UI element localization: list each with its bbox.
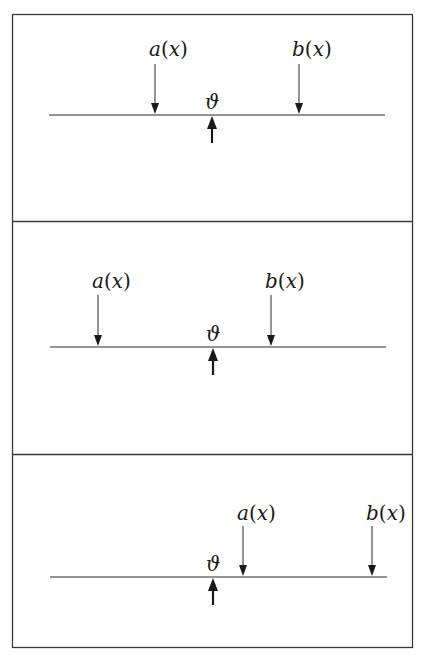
b-label: b(x) [292,37,332,61]
b-arrow-head-icon [267,335,275,346]
theta-arrow-head-icon [207,116,217,129]
b-arrow-head-icon [295,103,303,114]
panel-3: a(x) b(x) ϑ [50,501,406,605]
a-label: a(x) [237,501,276,525]
three-panel-diagram: a(x) b(x) ϑ a(x) b(x) ϑ a(x) b(x) ϑ [0,0,425,657]
theta-arrow-head-icon [208,348,218,361]
a-label: a(x) [149,37,188,61]
a-arrow-head-icon [94,335,102,346]
panel-1: a(x) b(x) ϑ [49,37,385,143]
panel-2: a(x) b(x) ϑ [50,269,386,375]
theta-label: ϑ [205,90,219,114]
theta-label: ϑ [206,552,220,576]
a-arrow-head-icon [239,565,247,576]
b-arrow-head-icon [368,565,376,576]
theta-label: ϑ [206,322,220,346]
a-label: a(x) [92,269,131,293]
theta-arrow-head-icon [208,578,218,591]
b-label: b(x) [265,269,305,293]
a-arrow-head-icon [151,103,159,114]
b-label: b(x) [366,501,406,525]
